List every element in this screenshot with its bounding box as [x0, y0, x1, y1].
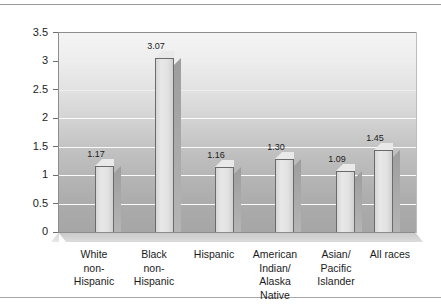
y-ticklabel-0.5: 0.5: [18, 198, 48, 209]
bar-side-face: [234, 167, 241, 233]
plot-area: [58, 32, 416, 233]
bar-value-hispanic: 1.16: [198, 151, 234, 160]
bar-white-non-hispanic[interactable]: [95, 166, 114, 233]
plot-floor: [58, 232, 423, 242]
bar-top-face: [275, 152, 294, 159]
x-category-asian-pacific-islander: Asian/ Pacific Islander: [306, 248, 366, 289]
bar-top-face: [336, 164, 355, 171]
bar-front-face: [275, 159, 294, 233]
bar-front-face: [374, 150, 393, 233]
bar-side-face: [114, 166, 121, 233]
bar-side-face: [174, 58, 181, 233]
y-ticklabel-2: 2: [18, 112, 48, 123]
bar-front-face: [95, 166, 114, 233]
bar-value-white-non-hispanic: 1.17: [78, 150, 114, 159]
bar-american-indian-alaska-native[interactable]: [275, 159, 294, 233]
bar-front-face: [336, 171, 355, 233]
bar-front-face: [155, 58, 174, 233]
gridline-3: [59, 61, 416, 62]
y-ticklabel-1.5: 1.5: [18, 141, 48, 152]
bar-asian-pacific-islander[interactable]: [336, 171, 355, 233]
bar-side-face: [355, 171, 362, 233]
bar-hispanic[interactable]: [215, 167, 234, 233]
bar-black-non-hispanic[interactable]: [155, 58, 174, 233]
x-category-black-non-hispanic: Black non- Hispanic: [124, 248, 184, 289]
x-category-hispanic: Hispanic: [184, 248, 244, 262]
bar-value-black-non-hispanic: 3.07: [138, 42, 174, 51]
gridline-2: [59, 118, 416, 119]
gridline-1.5: [59, 147, 416, 148]
bar-front-face: [215, 167, 234, 233]
bar-top-face: [155, 51, 174, 58]
bar-value-all-races: 1.45: [357, 134, 393, 143]
bar-value-american-indian-alaska-native: 1.30: [258, 143, 294, 152]
bar-value-asian-pacific-islander: 1.09: [319, 155, 355, 164]
bar-side-face: [294, 159, 301, 233]
x-axis-line: [58, 232, 415, 233]
y-ticklabel-3: 3: [18, 55, 48, 66]
bar-top-face: [95, 159, 114, 166]
x-category-american-indian-alaska-native: American Indian/ Alaska Native: [242, 248, 308, 302]
y-ticklabel-1: 1: [18, 169, 48, 180]
bar-chart-figure: Percentage of Live Births 3.5 3 2.5 2 1.…: [0, 8, 441, 293]
page-rule-bottom: [0, 297, 441, 298]
bar-side-face: [393, 150, 400, 233]
y-ticklabel-0: 0: [18, 226, 48, 237]
bar-all-races[interactable]: [374, 150, 393, 233]
x-category-white-non-hispanic: White non- Hispanic: [64, 248, 124, 289]
gridline-2.5: [59, 90, 416, 91]
y-ticklabel-3.5: 3.5: [18, 27, 48, 38]
bar-top-face: [215, 160, 234, 167]
x-category-all-races: All races: [358, 248, 422, 262]
y-ticklabel-2.5: 2.5: [18, 84, 48, 95]
page-rule-top: [0, 4, 441, 5]
plot-floor-face: [58, 232, 423, 242]
